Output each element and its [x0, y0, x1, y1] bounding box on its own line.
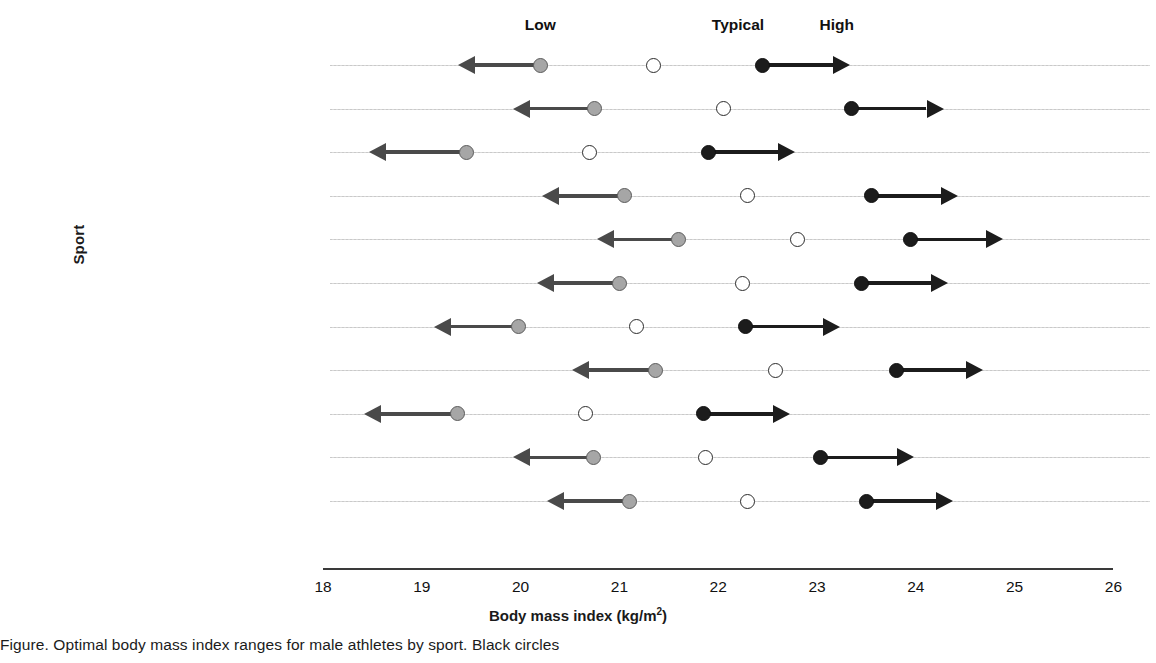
low-arrow-shaft	[451, 325, 519, 329]
typical-marker[interactable]	[698, 450, 713, 465]
x-axis-line	[323, 568, 1113, 570]
gridline	[330, 457, 1150, 458]
x-axis-title: Body mass index (kg/m2)	[0, 606, 1156, 624]
high-marker[interactable]	[903, 232, 918, 247]
gridline	[330, 109, 1150, 110]
high-marker[interactable]	[864, 188, 879, 203]
high-arrow-head	[778, 143, 795, 161]
low-marker[interactable]	[617, 188, 632, 203]
x-tick-label: 24	[896, 578, 936, 596]
high-arrow-shaft	[821, 456, 897, 460]
x-tick-label: 23	[797, 578, 837, 596]
low-arrow-head	[572, 361, 589, 379]
x-tick-label: 25	[995, 578, 1035, 596]
high-arrow-shaft	[703, 412, 773, 416]
low-marker[interactable]	[612, 276, 627, 291]
typical-marker[interactable]	[735, 276, 750, 291]
low-marker[interactable]	[622, 494, 637, 509]
low-arrow-shaft	[475, 63, 540, 67]
high-marker[interactable]	[859, 494, 874, 509]
typical-marker[interactable]	[790, 232, 805, 247]
low-arrow-head	[458, 56, 475, 74]
low-marker[interactable]	[648, 363, 663, 378]
high-marker[interactable]	[701, 145, 716, 160]
low-arrow-shaft	[530, 107, 595, 111]
column-header-low: Low	[490, 16, 590, 34]
x-tick-label: 26	[1093, 578, 1133, 596]
low-arrow-shaft	[381, 412, 457, 416]
high-arrow-head	[986, 230, 1003, 248]
high-arrow-head	[833, 56, 850, 74]
low-marker[interactable]	[586, 450, 601, 465]
typical-marker[interactable]	[578, 406, 593, 421]
high-arrow-shaft	[911, 238, 986, 242]
high-marker[interactable]	[755, 58, 770, 73]
typical-marker[interactable]	[768, 363, 783, 378]
low-arrow-shaft	[559, 194, 624, 198]
gridline	[330, 370, 1150, 371]
high-arrow-shaft	[763, 63, 833, 67]
high-arrow-head	[927, 100, 944, 118]
high-arrow-shaft	[861, 281, 931, 285]
x-tick-label: 18	[303, 578, 343, 596]
x-tick-label: 21	[599, 578, 639, 596]
high-arrow-head	[931, 274, 948, 292]
low-arrow-shaft	[589, 368, 656, 372]
low-arrow-head	[537, 274, 554, 292]
low-arrow-shaft	[386, 150, 466, 154]
typical-marker[interactable]	[716, 101, 731, 116]
typical-marker[interactable]	[582, 145, 597, 160]
low-arrow-head	[547, 492, 564, 510]
high-arrow-shaft	[866, 499, 936, 503]
x-axis-title-text: Body mass index (kg/m	[489, 607, 657, 624]
high-arrow-head	[941, 187, 958, 205]
high-marker[interactable]	[854, 276, 869, 291]
y-axis-category-labels: Track and fieldBasketballGymnasticsStrik…	[0, 0, 318, 560]
high-arrow-shaft	[746, 325, 823, 329]
low-arrow-head	[542, 187, 559, 205]
low-marker[interactable]	[533, 58, 548, 73]
low-marker[interactable]	[587, 101, 602, 116]
typical-marker[interactable]	[740, 494, 755, 509]
low-arrow-shaft	[564, 499, 629, 503]
low-arrow-head	[369, 143, 386, 161]
high-marker[interactable]	[844, 101, 859, 116]
low-arrow-shaft	[554, 281, 619, 285]
high-arrow-shaft	[871, 194, 941, 198]
column-header-typical: Typical	[688, 16, 788, 34]
low-arrow-head	[513, 448, 530, 466]
x-tick-label: 22	[698, 578, 738, 596]
low-arrow-shaft	[530, 456, 594, 460]
figure-root: Sport LowTypicalHigh Track and fieldBask…	[0, 0, 1156, 663]
low-marker[interactable]	[671, 232, 686, 247]
low-arrow-head	[434, 318, 451, 336]
high-arrow-head	[936, 492, 953, 510]
gridline	[330, 239, 1150, 240]
x-tick-label: 20	[501, 578, 541, 596]
low-marker[interactable]	[450, 406, 465, 421]
figure-caption: Figure. Optimal body mass index ranges f…	[0, 636, 1156, 654]
chart-plot-area: Sport LowTypicalHigh Track and fieldBask…	[0, 0, 1156, 663]
high-arrow-head	[773, 405, 790, 423]
gridline	[330, 65, 1150, 66]
typical-marker[interactable]	[629, 319, 644, 334]
typical-marker[interactable]	[740, 188, 755, 203]
column-header-high: High	[787, 16, 887, 34]
high-marker[interactable]	[738, 319, 753, 334]
high-marker[interactable]	[696, 406, 711, 421]
high-arrow-shaft	[852, 107, 927, 111]
low-arrow-head	[513, 100, 530, 118]
x-tick-label: 19	[402, 578, 442, 596]
low-arrow-shaft	[614, 238, 679, 242]
low-marker[interactable]	[511, 319, 526, 334]
high-arrow-shaft	[896, 368, 966, 372]
high-arrow-head	[823, 318, 840, 336]
low-marker[interactable]	[459, 145, 474, 160]
high-arrow-head	[966, 361, 983, 379]
high-arrow-shaft	[708, 150, 778, 154]
high-marker[interactable]	[889, 363, 904, 378]
typical-marker[interactable]	[646, 58, 661, 73]
high-marker[interactable]	[813, 450, 828, 465]
low-arrow-head	[597, 230, 614, 248]
x-axis-title-close-paren: )	[662, 607, 667, 624]
